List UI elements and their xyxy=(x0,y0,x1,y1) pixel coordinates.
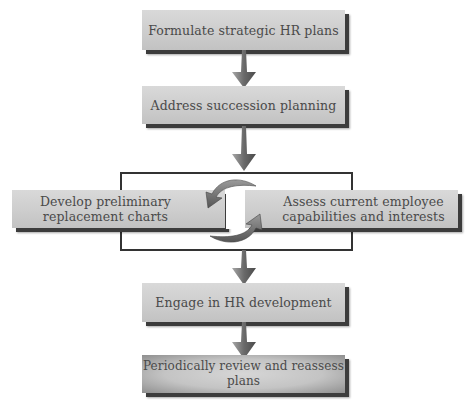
step-formulate-strategic-hr-plans: Formulate strategic HR plans xyxy=(142,10,345,50)
step-label: Develop preliminary replacement charts xyxy=(40,194,171,224)
down-arrow-icon xyxy=(228,250,260,286)
step-periodically-review-and-reassess-plans: Periodically review and reassess plans xyxy=(142,355,345,393)
step-label: Formulate strategic HR plans xyxy=(148,23,339,38)
step-address-succession-planning: Address succession planning xyxy=(142,86,345,124)
cycle-arrows-icon xyxy=(190,172,290,252)
step-label: Engage in HR development xyxy=(155,295,331,310)
down-arrow-icon xyxy=(228,126,260,172)
step-label: Assess current employee capabilities and… xyxy=(282,194,444,224)
down-arrow-icon xyxy=(228,50,260,90)
step-engage-in-hr-development: Engage in HR development xyxy=(142,283,345,322)
step-label: Address succession planning xyxy=(151,98,337,113)
step-label: Periodically review and reassess plans xyxy=(142,359,345,389)
